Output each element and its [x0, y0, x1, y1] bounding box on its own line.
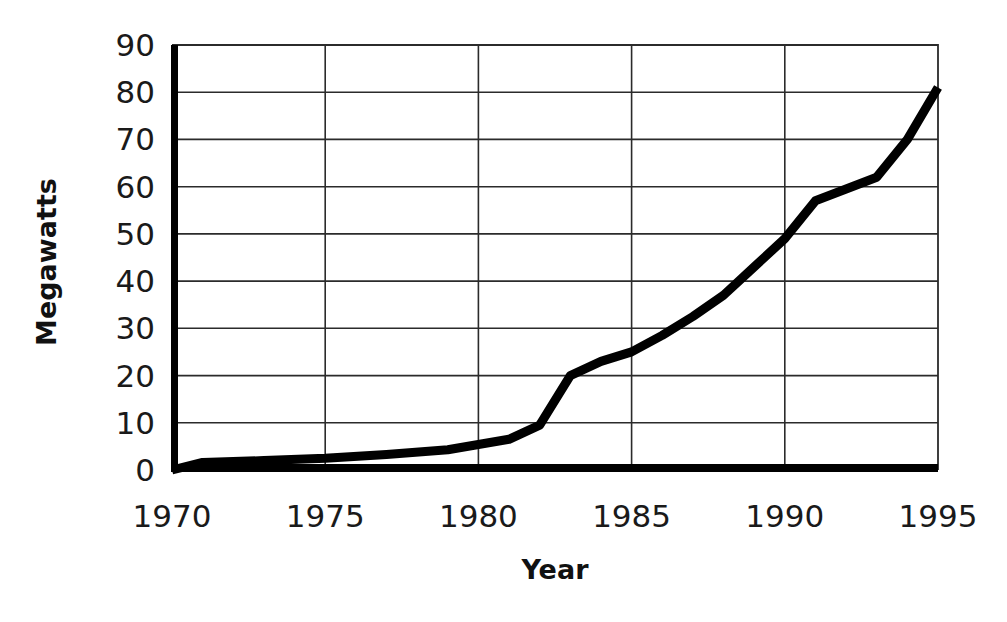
x-tick-1990: 1990 — [745, 498, 824, 534]
x-axis-title: Year — [521, 554, 590, 585]
y-tick-90: 90 — [116, 27, 155, 63]
y-tick-30: 30 — [116, 310, 155, 346]
chart-figure: 90 80 70 60 50 40 30 20 10 0 1970 1975 1… — [0, 0, 1007, 622]
line-chart: 90 80 70 60 50 40 30 20 10 0 1970 1975 1… — [0, 0, 1007, 622]
x-tick-1980: 1980 — [439, 498, 518, 534]
y-tick-20: 20 — [116, 358, 155, 394]
x-tick-1970: 1970 — [133, 498, 212, 534]
y-tick-40: 40 — [116, 263, 155, 299]
y-tick-80: 80 — [116, 74, 155, 110]
y-tick-70: 70 — [116, 121, 155, 157]
y-tick-50: 50 — [116, 216, 155, 252]
y-tick-10: 10 — [116, 405, 155, 441]
y-tick-0: 0 — [135, 452, 155, 488]
x-tick-1985: 1985 — [592, 498, 671, 534]
x-tick-labels: 1970 1975 1980 1985 1990 1995 — [133, 498, 978, 534]
y-tick-60: 60 — [116, 169, 155, 205]
x-tick-1995: 1995 — [899, 498, 978, 534]
y-axis-title: Megawatts — [31, 178, 62, 346]
x-tick-1975: 1975 — [286, 498, 365, 534]
y-tick-labels: 90 80 70 60 50 40 30 20 10 0 — [116, 27, 155, 488]
